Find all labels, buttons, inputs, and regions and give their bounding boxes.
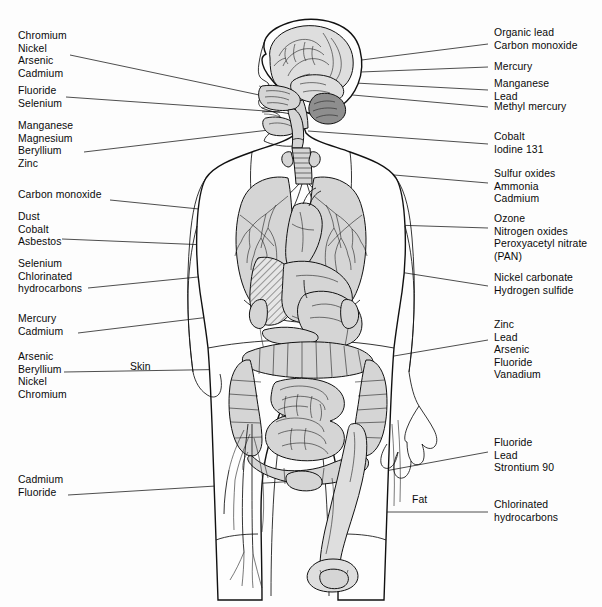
nasal-oral-cavity bbox=[259, 85, 304, 148]
label-cerebellum: Methyl mercury bbox=[494, 101, 566, 114]
brain bbox=[270, 26, 354, 130]
label-brain-mid: Mercury bbox=[494, 61, 532, 74]
label-teeth-mouth: FluorideSelenium bbox=[18, 85, 62, 110]
label-kidney-left: MercuryCadmium bbox=[18, 313, 63, 338]
label-bone-left: CadmiumFluoride bbox=[18, 474, 63, 499]
label-bone-right: FluorideLeadStrontium 90 bbox=[494, 437, 554, 475]
label-trachea-bronchi: ManganeseMagnesiumBerylliumZinc bbox=[18, 120, 73, 170]
label-lung-left: DustCobaltAsbestos bbox=[18, 211, 62, 249]
label-lower-airway: OzoneNitrogen oxidesPeroxyacetyl nitrate… bbox=[494, 213, 587, 263]
pollutant-body-diagram: ChromiumNickelArsenicCadmium FluorideSel… bbox=[0, 0, 602, 607]
subcutaneous-layer bbox=[392, 420, 400, 506]
label-brain-lower: ManganeseLead bbox=[494, 78, 549, 103]
label-intestine: ZincLeadArsenicFluorideVanadium bbox=[494, 319, 541, 382]
label-upper-airway: Sulfur oxidesAmmoniaCadmium bbox=[494, 168, 555, 206]
label-brain-cerebrum: Organic leadCarbon monoxide bbox=[494, 27, 578, 52]
small-intestine bbox=[266, 378, 345, 461]
bladder bbox=[286, 471, 322, 491]
label-lung-right: Nickel carbonateHydrogen sulfide bbox=[494, 272, 574, 297]
label-liver: SeleniumChlorinatedhydrocarbons bbox=[18, 258, 82, 296]
label-thyroid: CobaltIodine 131 bbox=[494, 131, 544, 156]
label-fat-callout: Fat bbox=[412, 494, 427, 507]
label-fat-tissue: Chlorinatedhydrocarbons bbox=[494, 499, 558, 524]
label-skin-callout: Skin bbox=[130, 361, 151, 374]
label-nose-sinus: ChromiumNickelArsenicCadmium bbox=[18, 30, 67, 80]
label-skin: ArsenicBerylliumNickelChromium bbox=[18, 351, 67, 401]
label-blood-heart: Carbon monoxide bbox=[18, 189, 102, 202]
